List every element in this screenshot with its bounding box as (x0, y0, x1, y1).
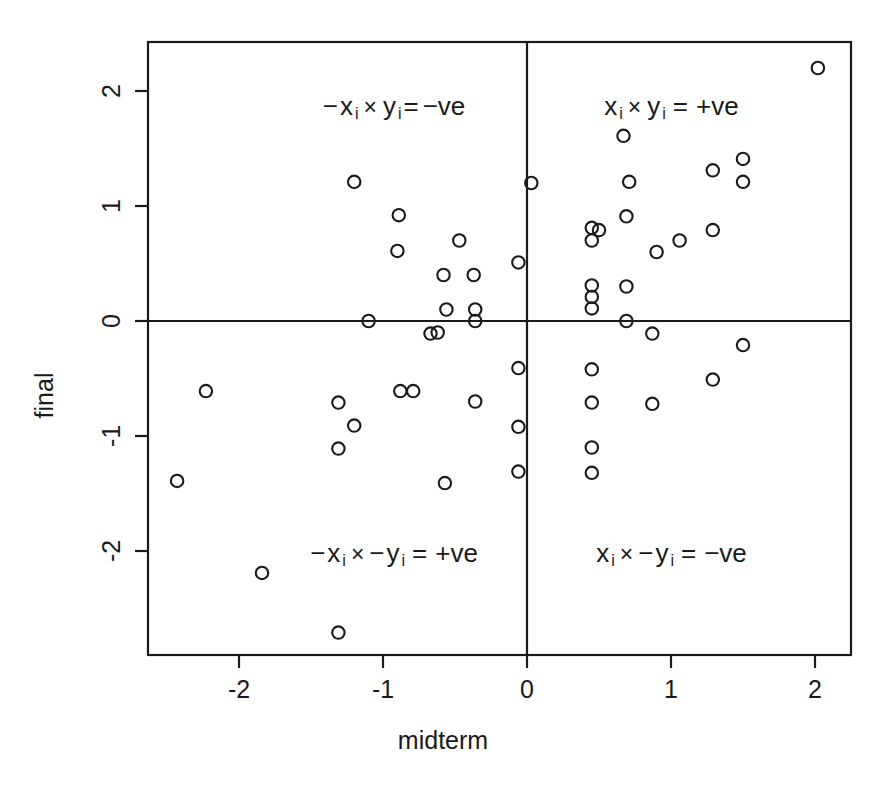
data-point (586, 441, 598, 453)
data-point (707, 164, 719, 176)
data-point (737, 339, 749, 351)
quad-bl-times: × (351, 541, 364, 568)
quad-bl-eq: = (412, 538, 427, 569)
y-tick-label: -2 (97, 540, 126, 562)
data-point (332, 396, 344, 408)
data-point (512, 465, 524, 477)
quad-tl-sub1: i (355, 104, 359, 122)
data-point (617, 130, 629, 142)
data-point (646, 398, 658, 410)
quad-tl-neg1: − (323, 90, 338, 121)
scatter-plot-figure: -2-1012 210-1-2 midterm final −xi×yi=−ve… (0, 0, 886, 794)
data-point (394, 385, 406, 397)
quadrant-label-top-right: xi×yi=+ve (602, 90, 739, 121)
quad-bl-var1: x (327, 538, 340, 569)
y-tick-label: 0 (97, 314, 126, 328)
data-point (348, 419, 360, 431)
x-tick-label: 2 (808, 675, 822, 704)
quad-bl-sub1: i (342, 552, 346, 570)
data-point (256, 567, 268, 579)
quad-br-neg2: − (638, 538, 653, 569)
quad-tr-sub2: i (662, 104, 666, 122)
quad-br-var1: x (596, 538, 609, 569)
quad-tr-eq: = (673, 90, 688, 121)
data-point (432, 326, 444, 338)
quad-tl-eq: = (403, 90, 418, 121)
data-point (469, 395, 481, 407)
quad-tl-sub2: i (398, 104, 402, 122)
data-point (393, 209, 405, 221)
data-point (332, 626, 344, 638)
quad-tr-sub1: i (619, 104, 623, 122)
x-tick-label: 0 (520, 675, 534, 704)
data-point (673, 234, 685, 246)
data-point (468, 269, 480, 281)
data-point (440, 303, 452, 315)
quad-tl-var2: y (383, 90, 396, 121)
x-tick-label: 1 (664, 675, 678, 704)
data-point (437, 269, 449, 281)
y-tick-label: 1 (97, 199, 126, 213)
data-point (512, 256, 524, 268)
quad-bl-neg2: − (369, 538, 384, 569)
data-point (200, 385, 212, 397)
data-point (737, 153, 749, 165)
quadrant-label-top-left: −xi×yi=−ve (323, 90, 467, 121)
data-point (453, 234, 465, 246)
axis-tick-marks (135, 91, 815, 668)
x-axis-title: midterm (398, 726, 488, 755)
quadrant-label-bottom-right: xi×−yi=−ve (594, 538, 748, 569)
data-point (391, 245, 403, 257)
data-point (512, 362, 524, 374)
data-point (348, 176, 360, 188)
data-point (171, 475, 183, 487)
quad-br-sub2: i (670, 552, 674, 570)
data-point (593, 224, 605, 236)
data-point (650, 246, 662, 258)
data-point (407, 385, 419, 397)
data-point (737, 176, 749, 188)
data-point (623, 176, 635, 188)
data-point (620, 210, 632, 222)
y-tick-label: 2 (97, 84, 126, 98)
quad-br-result: −ve (704, 538, 747, 569)
data-point (812, 62, 824, 74)
quad-br-sub1: i (611, 552, 615, 570)
quad-br-eq: = (681, 538, 696, 569)
quad-tr-times: × (628, 93, 641, 120)
quad-bl-neg1: − (310, 538, 325, 569)
quad-tr-result: +ve (696, 90, 739, 121)
data-point (332, 442, 344, 454)
data-point (646, 327, 658, 339)
quad-tl-var1: x (340, 90, 353, 121)
quad-tl-times: × (363, 93, 376, 120)
quad-bl-var2: y (387, 538, 400, 569)
data-point (586, 363, 598, 375)
data-point (707, 224, 719, 236)
y-axis-title: final (30, 373, 59, 419)
quad-tl-result: −ve (423, 90, 466, 121)
quad-tr-var1: x (604, 90, 617, 121)
data-point (620, 280, 632, 292)
data-point (512, 421, 524, 433)
data-point (586, 467, 598, 479)
data-point (586, 396, 598, 408)
quad-tr-var2: y (647, 90, 660, 121)
x-tick-label: -1 (372, 675, 394, 704)
quad-br-var2: y (655, 538, 668, 569)
x-tick-label: -2 (228, 675, 250, 704)
quadrant-label-bottom-left: −xi×−yi=+ve (310, 538, 479, 569)
quad-br-times: × (620, 541, 633, 568)
quad-bl-result: +ve (435, 538, 478, 569)
quad-bl-sub2: i (402, 552, 406, 570)
data-point (707, 373, 719, 385)
y-tick-label: -1 (97, 425, 126, 447)
data-point (439, 477, 451, 489)
